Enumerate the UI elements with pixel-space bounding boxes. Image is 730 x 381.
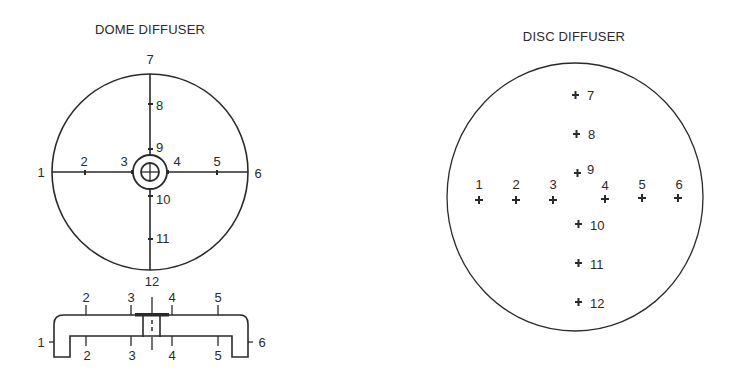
disc-label-2: 2 [512, 177, 519, 192]
diffuser-diagram: DOME DIFFUSER 1 2 3 4 5 6 7 8 9 [0, 0, 730, 381]
dome-diffuser-title: DOME DIFFUSER [95, 22, 205, 37]
dome-diffuser: DOME DIFFUSER 1 2 3 4 5 6 7 8 9 [37, 22, 265, 363]
disc-point-markers [475, 91, 682, 306]
dome-label-7: 7 [146, 52, 153, 67]
section-left-label-1: 1 [37, 335, 44, 350]
dome-cross-section: 2 3 4 5 2 3 4 5 1 6 [37, 290, 265, 363]
dome-label-11: 11 [156, 231, 170, 246]
dome-label-1: 1 [37, 165, 44, 180]
disc-label-11: 11 [590, 257, 604, 272]
disc-label-3: 3 [549, 177, 556, 192]
section-top-label-4: 4 [168, 290, 175, 305]
dome-label-9: 9 [156, 140, 163, 155]
section-bottom-label-3: 3 [128, 348, 135, 363]
disc-label-1: 1 [475, 177, 482, 192]
disc-label-12: 12 [590, 296, 604, 311]
dome-label-8: 8 [156, 98, 163, 113]
disc-label-7: 7 [587, 88, 594, 103]
dome-label-12: 12 [145, 274, 159, 289]
dome-label-5: 5 [213, 154, 220, 169]
section-top-label-3: 3 [127, 290, 134, 305]
disc-label-9: 9 [587, 162, 594, 177]
disc-label-4: 4 [601, 178, 608, 193]
section-bottom-label-2: 2 [83, 348, 90, 363]
disc-diffuser: DISC DIFFUSER 1 2 3 4 5 6 7 8 9 10 11 12 [447, 29, 703, 331]
disc-label-8: 8 [588, 127, 595, 142]
disc-label-5: 5 [638, 177, 645, 192]
dome-label-4: 4 [173, 154, 180, 169]
section-top-label-2: 2 [82, 290, 89, 305]
disc-label-10: 10 [590, 218, 604, 233]
disc-diffuser-title: DISC DIFFUSER [523, 29, 625, 44]
section-top-label-5: 5 [214, 290, 221, 305]
disc-outline [447, 63, 703, 331]
dome-section-cap-plate [135, 313, 169, 317]
dome-label-6: 6 [254, 166, 261, 181]
dome-label-10: 10 [156, 192, 170, 207]
dome-label-3: 3 [120, 154, 127, 169]
disc-label-6: 6 [675, 177, 682, 192]
section-bottom-label-4: 4 [168, 348, 175, 363]
dome-label-2: 2 [80, 154, 87, 169]
section-right-label-6: 6 [258, 335, 265, 350]
section-bottom-label-5: 5 [214, 348, 221, 363]
